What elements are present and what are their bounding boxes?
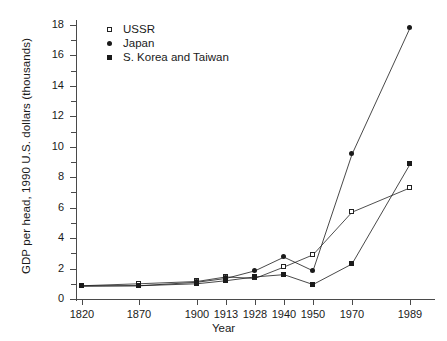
data-point-marker [223, 278, 228, 283]
data-point-marker [349, 261, 354, 266]
data-point-marker [281, 272, 286, 277]
filled-circle-icon [101, 41, 117, 46]
series-line [82, 28, 410, 286]
data-point-marker [310, 282, 315, 287]
series-line [82, 164, 410, 286]
series-line [82, 188, 410, 286]
data-point-marker [79, 283, 84, 288]
legend-item-ussr: USSR [101, 22, 229, 36]
chart-container: GDP per head, 1990 U.S. dollars (thousan… [0, 0, 447, 341]
filled-square-icon [101, 55, 117, 60]
legend-label: USSR [123, 23, 155, 35]
legend-label: Japan [123, 37, 154, 49]
legend-item-korea-taiwan: S. Korea and Taiwan [101, 50, 229, 64]
data-point-marker [349, 209, 354, 214]
legend-label: S. Korea and Taiwan [123, 51, 229, 63]
data-point-marker [252, 268, 257, 273]
data-point-marker [310, 252, 315, 257]
data-point-marker [407, 25, 412, 30]
data-point-marker [407, 185, 412, 190]
x-axis-title: Year [0, 322, 447, 334]
data-point-marker [136, 283, 141, 288]
chart-legend: USSR Japan S. Korea and Taiwan [101, 22, 229, 64]
data-point-marker [281, 264, 286, 269]
data-point-marker [194, 281, 199, 286]
data-point-marker [252, 274, 257, 279]
open-square-icon [101, 27, 117, 32]
data-point-marker [407, 161, 412, 166]
data-point-marker [310, 268, 315, 273]
legend-item-japan: Japan [101, 36, 229, 50]
